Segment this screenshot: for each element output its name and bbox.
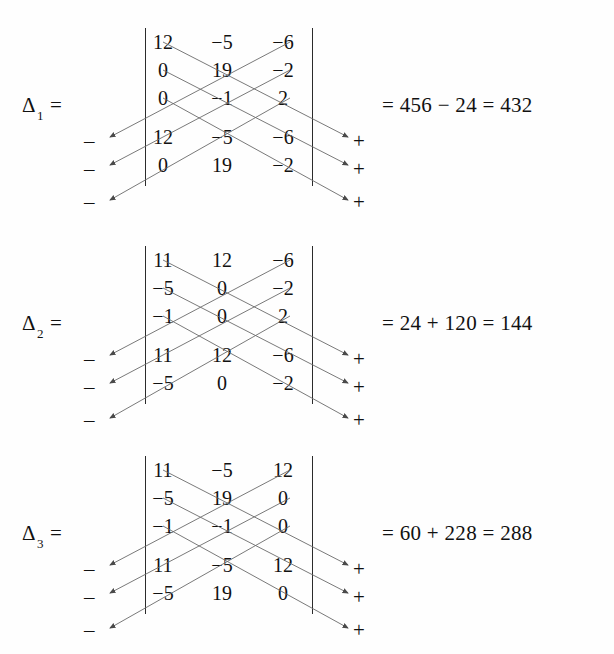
matrix-cell-repeat: 0 [256, 583, 310, 603]
matrix-cell-repeat: −6 [256, 127, 310, 147]
matrix-cell: 2 [256, 88, 310, 108]
determinant-block-1: Δ1= 12 −5 −6 0 19 −2 0 −1 2 12 −5 −6 0 1… [0, 0, 614, 218]
matrix-cell: 19 [195, 488, 249, 508]
matrix-bar-right [312, 246, 313, 404]
matrix-cell: −5 [195, 460, 249, 480]
equals-sign: = [50, 311, 62, 335]
matrix-cell-repeat: 0 [136, 155, 190, 175]
plus-sign: + [353, 159, 365, 180]
matrix-cell-repeat: 11 [136, 345, 190, 365]
plus-sign: + [353, 620, 365, 641]
result-expression-2: = 24 + 120 = 144 [382, 313, 533, 334]
matrix-cell: −5 [136, 488, 190, 508]
delta-subscript: 2 [37, 326, 44, 341]
worksheet-sheet: Δ1= 12 −5 −6 0 19 −2 0 −1 2 12 −5 −6 0 1… [0, 0, 614, 654]
matrix-cell-repeat: 19 [195, 583, 249, 603]
matrix-cell: 0 [195, 278, 249, 298]
matrix-3: 11 −5 12 −5 19 0 −1 −1 0 11 −5 12 −5 19 … [145, 456, 313, 614]
matrix-cell: −1 [195, 88, 249, 108]
matrix-cell-repeat: 11 [136, 555, 190, 575]
delta-symbol: Δ [22, 521, 36, 545]
plus-sign: + [353, 131, 365, 152]
matrix-cell: 12 [136, 32, 190, 52]
minus-sign: – [84, 559, 95, 580]
matrix-cell: −1 [195, 516, 249, 536]
matrix-cell: −1 [136, 306, 190, 326]
delta-label-3: Δ3= [22, 523, 62, 547]
equals-sign: = [50, 93, 62, 117]
minus-sign: – [84, 349, 95, 370]
matrix-cell: 0 [256, 488, 310, 508]
matrix-cell: −6 [256, 250, 310, 270]
delta-subscript: 3 [37, 536, 44, 551]
matrix-cell: −2 [256, 60, 310, 80]
minus-sign: – [84, 192, 95, 213]
matrix-cell: −5 [195, 32, 249, 52]
matrix-cell: −1 [136, 516, 190, 536]
plus-sign: + [353, 587, 365, 608]
matrix-cell: 2 [256, 306, 310, 326]
result-expression-3: = 60 + 228 = 288 [382, 523, 533, 544]
plus-sign: + [353, 192, 365, 213]
matrix-cell-repeat: −6 [256, 345, 310, 365]
matrix-cell: −5 [136, 278, 190, 298]
determinant-block-2: Δ2= 11 12 −6 −5 0 −2 −1 0 2 11 12 −6 −5 … [0, 218, 614, 436]
minus-sign: – [84, 159, 95, 180]
matrix-cell-repeat: 0 [195, 373, 249, 393]
determinant-block-3: Δ3= 11 −5 12 −5 19 0 −1 −1 0 11 −5 12 −5… [0, 428, 614, 646]
matrix-cell-repeat: −2 [256, 155, 310, 175]
matrix-cell: 19 [195, 60, 249, 80]
matrix-cell: 11 [136, 250, 190, 270]
matrix-cell: −2 [256, 278, 310, 298]
matrix-cell-repeat: 19 [195, 155, 249, 175]
matrix-cell-repeat: −5 [136, 583, 190, 603]
matrix-2: 11 12 −6 −5 0 −2 −1 0 2 11 12 −6 −5 0 −2 [145, 246, 313, 404]
matrix-cell: 12 [195, 250, 249, 270]
plus-sign: + [353, 377, 365, 398]
matrix-cell-repeat: 12 [256, 555, 310, 575]
minus-sign: – [84, 587, 95, 608]
matrix-cell-repeat: −2 [256, 373, 310, 393]
equals-sign: = [50, 521, 62, 545]
minus-sign: – [84, 620, 95, 641]
matrix-cell-repeat: 12 [136, 127, 190, 147]
result-expression-1: = 456 − 24 = 432 [382, 95, 533, 116]
matrix-cell-repeat: −5 [195, 555, 249, 575]
matrix-1: 12 −5 −6 0 19 −2 0 −1 2 12 −5 −6 0 19 −2 [145, 28, 313, 186]
matrix-cell: 0 [136, 88, 190, 108]
delta-symbol: Δ [22, 93, 36, 117]
matrix-cell: 0 [195, 306, 249, 326]
delta-symbol: Δ [22, 311, 36, 335]
matrix-cell: 0 [256, 516, 310, 536]
minus-sign: – [84, 131, 95, 152]
matrix-cell: 11 [136, 460, 190, 480]
matrix-bar-right [312, 28, 313, 186]
matrix-cell: −6 [256, 32, 310, 52]
delta-subscript: 1 [37, 108, 44, 123]
matrix-cell-repeat: 12 [195, 345, 249, 365]
matrix-bar-right [312, 456, 313, 614]
matrix-cell: 12 [256, 460, 310, 480]
plus-sign: + [353, 559, 365, 580]
matrix-cell-repeat: −5 [195, 127, 249, 147]
matrix-cell-repeat: −5 [136, 373, 190, 393]
delta-label-1: Δ1= [22, 95, 62, 119]
plus-sign: + [353, 349, 365, 370]
minus-sign: – [84, 377, 95, 398]
delta-label-2: Δ2= [22, 313, 62, 337]
matrix-cell: 0 [136, 60, 190, 80]
